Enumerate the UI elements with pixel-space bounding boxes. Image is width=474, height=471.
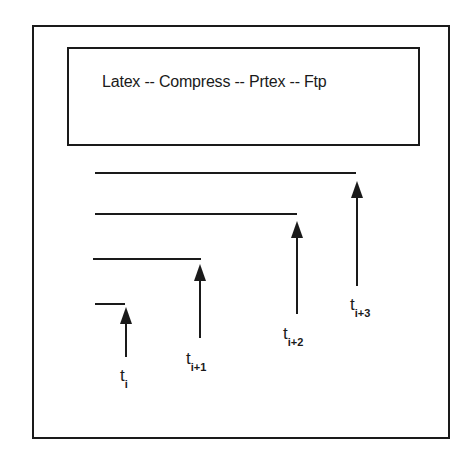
arrow-up-icon: [291, 221, 303, 314]
time-label-subscript: i+3: [355, 307, 371, 319]
arrow-up-icon: [351, 181, 363, 286]
arrow-up-icon: [194, 264, 206, 338]
time-label-2: ti+2: [283, 325, 303, 348]
horizontal-lines: [93, 173, 356, 304]
timeline-diagram: [0, 0, 474, 471]
up-arrows: [120, 181, 363, 357]
time-label-subscript: i+1: [191, 361, 207, 373]
time-label-subscript: i+2: [288, 336, 304, 348]
time-label-1: ti+1: [186, 350, 206, 373]
time-label-subscript: i: [125, 378, 128, 390]
time-label-0: ti: [120, 367, 128, 390]
arrow-up-icon: [120, 307, 132, 357]
time-label-3: ti+3: [350, 296, 370, 319]
